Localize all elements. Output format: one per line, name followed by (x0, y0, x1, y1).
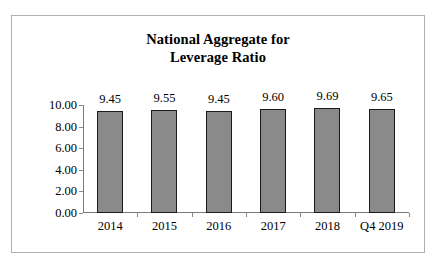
bar-group: 9.452014 (83, 105, 137, 213)
x-axis-category-label: 2014 (98, 219, 123, 234)
bar-group: 9.602017 (246, 105, 300, 213)
bar-value-label: 9.65 (371, 90, 393, 105)
x-axis-tick-mark (355, 213, 356, 217)
x-axis-tick-mark (137, 213, 138, 217)
bar[interactable] (97, 111, 123, 213)
chart-title: National Aggregate for Leverage Ratio (12, 30, 424, 66)
bar-value-label: 9.60 (262, 90, 284, 105)
bar[interactable] (151, 110, 177, 213)
plot-area: 0.002.004.006.008.0010.00 9.4520149.5520… (83, 105, 409, 213)
x-axis-tick-mark (246, 213, 247, 217)
x-axis-tick-mark (300, 213, 301, 217)
chart-title-line-1: National Aggregate for (12, 30, 424, 48)
y-axis-tick-label: 2.00 (55, 184, 77, 199)
chart-title-line-2: Leverage Ratio (12, 48, 424, 66)
bar-group: 9.692018 (300, 105, 354, 213)
bar-value-label: 9.45 (99, 92, 121, 107)
bar-group: 9.65Q4 2019 (355, 105, 409, 213)
x-axis-category-label: 2017 (261, 219, 286, 234)
y-axis-tick-label: 6.00 (55, 141, 77, 156)
bar[interactable] (206, 111, 232, 213)
bar-group: 9.552015 (137, 105, 191, 213)
x-axis-tick-mark (409, 213, 410, 217)
chart-frame: National Aggregate for Leverage Ratio 0.… (11, 15, 425, 253)
y-axis-tick-label: 8.00 (55, 119, 77, 134)
x-axis-category-label: 2016 (206, 219, 231, 234)
y-axis-tick-label: 4.00 (55, 162, 77, 177)
bar-value-label: 9.45 (208, 92, 230, 107)
y-axis-tick-label: 0.00 (55, 206, 77, 221)
bar[interactable] (369, 109, 395, 213)
bar-value-label: 9.55 (154, 91, 176, 106)
x-axis-tick-mark (192, 213, 193, 217)
x-axis-category-label: 2015 (152, 219, 177, 234)
bar[interactable] (314, 108, 340, 213)
bar-value-label: 9.69 (317, 89, 339, 104)
y-axis-tick-mark (79, 213, 83, 214)
x-axis-category-label: 2018 (315, 219, 340, 234)
x-axis-category-label: Q4 2019 (360, 219, 403, 234)
y-axis-tick-label: 10.00 (49, 98, 77, 113)
bar-group: 9.452016 (192, 105, 246, 213)
bar[interactable] (260, 109, 286, 213)
